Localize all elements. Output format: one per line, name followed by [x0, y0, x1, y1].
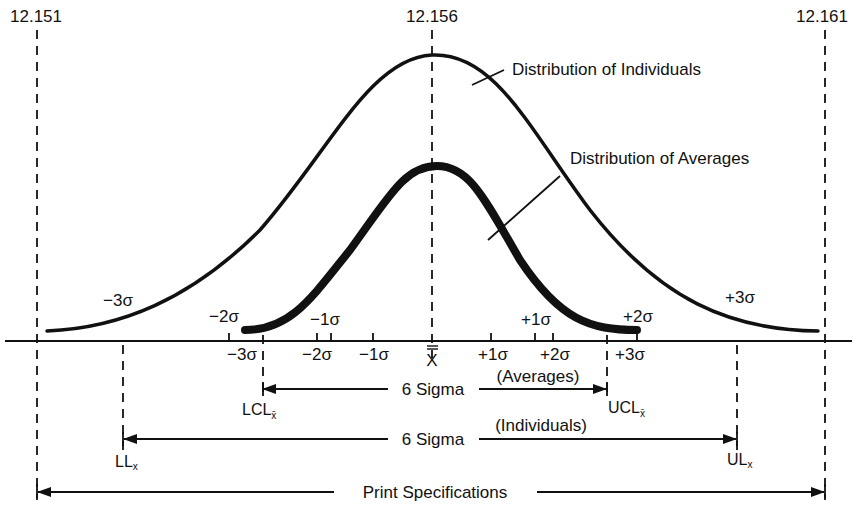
averages-label: Distribution of Averages	[570, 149, 749, 168]
grand-mean-symbol: X	[426, 346, 438, 370]
lower-spec-value: 12.151	[10, 7, 62, 26]
process-capability-diagram: 12.151 12.156 12.161 Distribution of Ind…	[0, 0, 855, 516]
individuals-leader-line	[472, 70, 504, 85]
axis-center-label: X	[426, 351, 437, 370]
print-specifications-label: Print Specifications	[363, 483, 508, 502]
individuals-caption: (Individuals)	[495, 416, 587, 435]
individuals-label: Distribution of Individuals	[512, 60, 701, 79]
axis-minus3-sigma: −3σ	[227, 345, 257, 364]
averages-leader-line	[488, 176, 560, 240]
avg-plus2-sigma: +2σ	[623, 307, 653, 326]
averages-6sigma-span: 6 Sigma (Averages)	[263, 367, 607, 399]
ucl-label: UCLx̄	[608, 399, 645, 419]
averages-caption: (Averages)	[497, 367, 580, 386]
avg-plus1-sigma: +1σ	[521, 310, 551, 329]
axis-plus1-sigma: +1σ	[478, 345, 508, 364]
upper-spec-value: 12.161	[796, 7, 848, 26]
ul-label: ULx	[727, 451, 752, 470]
nominal-value: 12.156	[406, 7, 458, 26]
averages-6sigma-label: 6 Sigma	[402, 380, 465, 399]
individuals-6sigma-span: 6 Sigma (Individuals)	[123, 416, 737, 449]
print-specifications-span: Print Specifications	[37, 483, 825, 502]
avg-minus2-sigma: −2σ	[209, 307, 239, 326]
individual-minus3-sigma: −3σ	[103, 291, 133, 310]
axis-minus2-sigma: −2σ	[302, 345, 332, 364]
individual-plus3-sigma: +3σ	[725, 288, 755, 307]
averages-curve	[245, 166, 637, 330]
axis-plus3-sigma: +3σ	[615, 345, 645, 364]
lcl-label: LCLx̄	[242, 401, 276, 421]
ll-label: LLx	[115, 453, 138, 472]
axis-plus2-sigma: +2σ	[540, 345, 570, 364]
axis-minus1-sigma: −1σ	[359, 345, 389, 364]
avg-minus1-sigma: −1σ	[310, 310, 340, 329]
axis-ticks	[229, 333, 637, 341]
individuals-6sigma-label: 6 Sigma	[402, 430, 465, 449]
